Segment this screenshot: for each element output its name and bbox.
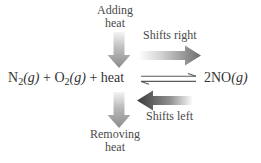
down-arrow-removing-heat-icon (108, 92, 131, 128)
left-arrow-shifts-left-icon (137, 91, 192, 111)
arrow-layer (0, 0, 261, 163)
equilibrium-diagram: Adding heat Removing heat Shifts right S… (0, 0, 261, 163)
down-arrow-adding-heat-icon (108, 32, 131, 68)
right-arrow-shifts-right-icon (140, 46, 201, 66)
equilibrium-harpoons-icon (141, 73, 196, 84)
